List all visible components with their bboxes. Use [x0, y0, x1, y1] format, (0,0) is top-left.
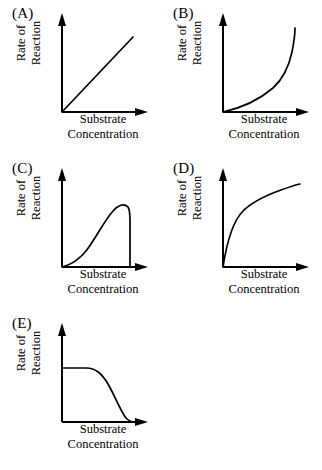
y-axis-arrowhead-b [219, 13, 227, 26]
curve-hyperbolic-saturation [223, 184, 300, 267]
x-axis-label-b: Substrate Concentration [209, 112, 319, 142]
y-axis-arrowhead-a [58, 13, 66, 26]
curve-peak-then-drop [62, 205, 130, 267]
y-axis-arrowhead-d [219, 168, 227, 181]
y-axis-label-a: Rate of Reaction [14, 0, 48, 88]
x-axis-label-d: Substrate Concentration [209, 267, 319, 297]
y-axis-label-c: Rate of Reaction [14, 153, 48, 243]
y-axis-arrowhead-e [58, 323, 66, 336]
enzyme-kinetics-figure: (A) Rate of Reaction Substrate Concentra… [0, 0, 322, 470]
y-axis-label-d: Rate of Reaction [175, 153, 209, 243]
panel-d: (D) Rate of Reaction Substrate Concentra… [161, 155, 322, 310]
curve-plateau-then-decline [62, 368, 134, 422]
x-axis-label-a: Substrate Concentration [48, 112, 158, 142]
panel-a: (A) Rate of Reaction Substrate Concentra… [0, 0, 161, 155]
panel-e: (E) Rate of Reaction Substrate Concentra… [0, 310, 161, 465]
panel-b: (B) Rate of Reaction Substrate Concentra… [161, 0, 322, 155]
x-axis-label-e: Substrate Concentration [48, 422, 158, 452]
x-axis-label-c: Substrate Concentration [48, 267, 158, 297]
panel-c: (C) Rate of Reaction Substrate Concentra… [0, 155, 161, 310]
y-axis-label-e: Rate of Reaction [14, 308, 48, 398]
y-axis-label-b: Rate of Reaction [175, 0, 209, 88]
curve-exponential-rising [223, 28, 295, 112]
curve-linear-rising-line [62, 37, 133, 112]
y-axis-arrowhead-c [58, 168, 66, 181]
